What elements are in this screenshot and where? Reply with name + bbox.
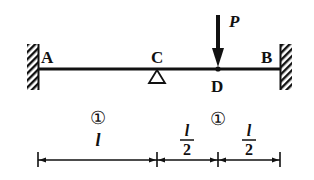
label-d: D [211, 77, 223, 96]
arrowhead-icon [210, 158, 217, 163]
arrowhead-icon [272, 158, 279, 163]
wall-hatch-icon [27, 44, 38, 90]
segment-length-l: l [95, 130, 100, 150]
node-d-dot [215, 66, 220, 71]
arrowhead-icon [39, 158, 46, 163]
label-b: B [261, 48, 272, 67]
wall-hatch-icon [281, 44, 292, 90]
arrowhead-icon [149, 158, 156, 163]
arrowhead-icon [219, 158, 226, 163]
pin-support-icon [149, 70, 165, 83]
fixed-support-a [27, 44, 39, 90]
arrowhead-icon [158, 158, 165, 163]
fraction-denominator: 2 [183, 141, 191, 158]
load-p [212, 15, 224, 67]
fraction-db: l 2 [242, 122, 256, 158]
label-c: C [151, 48, 163, 67]
segment-marker-2: ① [210, 109, 226, 129]
fixed-support-b [281, 44, 293, 90]
beam-diagram: A C D B P ① l ① l 2 l 2 [0, 0, 314, 180]
dimension-line [38, 152, 280, 167]
label-a: A [41, 48, 54, 67]
fraction-cd: l 2 [180, 122, 194, 158]
fraction-numerator: l [247, 122, 252, 139]
fraction-denominator: 2 [245, 141, 253, 158]
segment-marker-1: ① [90, 108, 106, 128]
label-load-p: P [228, 12, 240, 31]
fraction-numerator: l [185, 122, 190, 139]
arrow-down-icon [212, 48, 224, 67]
